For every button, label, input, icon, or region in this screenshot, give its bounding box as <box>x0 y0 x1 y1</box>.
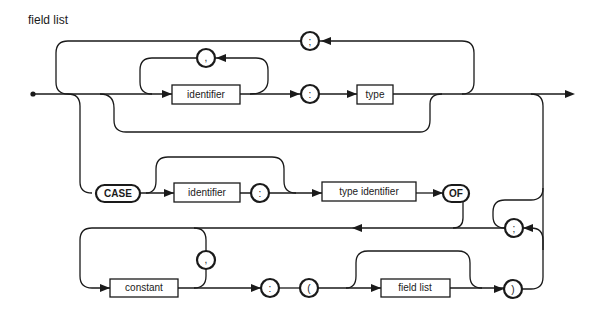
syntax-diagram: ; , identifier : type CASE identifier : … <box>0 0 606 317</box>
colon-3-label: : <box>269 283 272 294</box>
colon-1-label: : <box>309 89 312 100</box>
identifier-label: identifier <box>187 89 225 100</box>
field-list-label: field list <box>398 282 432 293</box>
case-identifier-arrow <box>164 189 174 197</box>
semicolon-loop-arrow <box>321 37 331 45</box>
constant-label: constant <box>125 282 163 293</box>
of-arrow <box>433 189 443 197</box>
rparen-label: ) <box>511 284 514 295</box>
return-arrow <box>352 224 362 232</box>
semicolon-top-label: ; <box>309 36 312 47</box>
identifier-arrow <box>162 90 172 98</box>
case-label: CASE <box>104 188 132 199</box>
field-list-arrow <box>371 284 381 292</box>
comma-loop-arrow <box>216 54 226 62</box>
type-identifier-arrow <box>312 189 322 197</box>
colon-3-arrow <box>251 284 261 292</box>
rparen-arrow <box>494 285 504 293</box>
exit-arrow <box>565 90 575 98</box>
comma-top-label: , <box>205 52 208 63</box>
of-label: OF <box>449 188 463 199</box>
variant-branch <box>68 94 92 193</box>
start-dot <box>30 91 35 96</box>
semicolon-2-arrow <box>523 224 533 232</box>
semicolon-loop <box>56 41 474 94</box>
semicolon-2-label: ; <box>513 223 516 234</box>
type-label: type <box>366 89 385 100</box>
of-descender <box>453 202 463 228</box>
comma-2-label: , <box>205 254 208 265</box>
case-identifier-label: identifier <box>188 187 226 198</box>
type-identifier-label: type identifier <box>339 186 399 197</box>
colon-arrow <box>290 90 300 98</box>
type-arrow <box>347 90 357 98</box>
right-vertical <box>523 94 543 289</box>
colon-2-label: : <box>259 188 262 199</box>
semicolon-2-feed <box>524 228 543 250</box>
constant-arrow <box>100 284 110 292</box>
